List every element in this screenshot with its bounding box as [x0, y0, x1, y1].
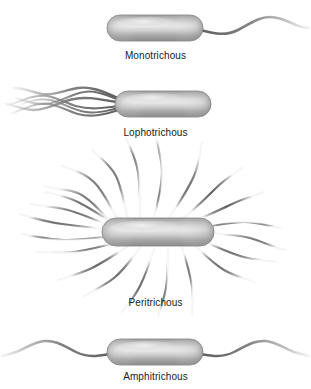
bacterial-flagella-figure: Monotrichous Lophotrichous Peritrichous …: [0, 0, 311, 389]
label-lophotrichous: Lophotrichous: [0, 127, 311, 138]
cell-body-amphitrichous: [107, 339, 203, 365]
flagellum-amphitrichous-right: [200, 341, 309, 356]
panel-peritrichous: [20, 138, 286, 316]
cell-body-monotrichous: [107, 15, 203, 41]
label-monotrichous: Monotrichous: [0, 50, 311, 61]
panel-amphitrichous: [2, 339, 309, 365]
flagellum-amphitrichous-left: [2, 341, 110, 356]
flagellum-monotrichous: [200, 17, 309, 34]
cell-body-peritrichous: [102, 218, 214, 246]
flagella-tuft-lophotrichous: [6, 88, 120, 116]
label-peritrichous: Peritrichous: [0, 297, 311, 308]
label-amphitrichous: Amphitrichous: [0, 371, 311, 382]
cell-body-lophotrichous: [115, 91, 211, 117]
panel-lophotrichous: [6, 88, 211, 117]
panel-monotrichous: [107, 15, 309, 41]
